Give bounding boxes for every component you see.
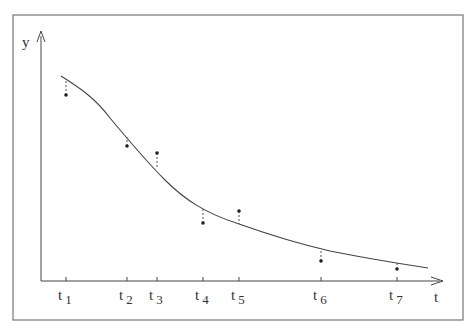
y-axis-label: y bbox=[22, 34, 30, 50]
data-point bbox=[64, 93, 68, 97]
tick-label: t5 bbox=[231, 287, 245, 307]
tick-label: t7 bbox=[389, 287, 403, 307]
data-point bbox=[395, 267, 399, 271]
data-point bbox=[237, 209, 241, 213]
tick-label: t1 bbox=[58, 287, 72, 307]
data-points bbox=[64, 81, 399, 271]
data-point bbox=[125, 144, 129, 148]
tick-label: t4 bbox=[195, 287, 209, 307]
tick-label: t2 bbox=[119, 287, 133, 307]
data-point bbox=[319, 259, 323, 263]
frame bbox=[13, 15, 463, 320]
diagram-canvas: y t t1t2t3t4t5t6t7 bbox=[0, 0, 473, 334]
x-axis-label: t bbox=[434, 289, 439, 305]
fitted-curve bbox=[61, 76, 428, 268]
data-point bbox=[155, 151, 159, 155]
tick-label: t6 bbox=[313, 287, 327, 307]
tick-label: t3 bbox=[149, 287, 163, 307]
data-point bbox=[201, 221, 205, 225]
